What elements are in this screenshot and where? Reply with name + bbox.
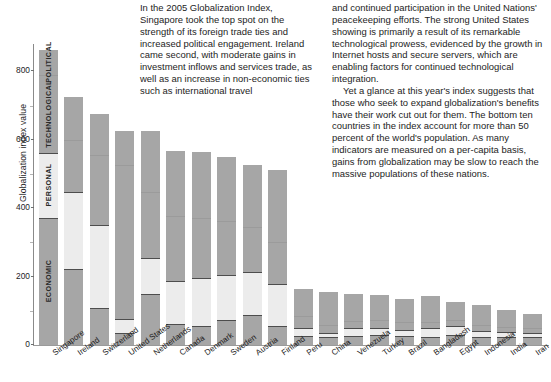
bar-segment-personal bbox=[64, 192, 83, 269]
y-axis-title: Globalization index value bbox=[18, 68, 28, 238]
bar-segment-political bbox=[217, 157, 236, 220]
bar-segment-personal bbox=[192, 278, 211, 326]
y-tick-minor-100 bbox=[30, 311, 33, 312]
bar-austria[interactable] bbox=[243, 165, 262, 345]
legend-label-technological: TECHNOLOGICAL bbox=[45, 80, 53, 148]
bar-segment-personal bbox=[421, 328, 440, 338]
y-tick-800: 800 bbox=[3, 65, 30, 75]
bar-segment-political bbox=[294, 289, 313, 316]
bar-segment-technological bbox=[141, 192, 160, 258]
bar-canada[interactable] bbox=[166, 151, 185, 345]
bar-segment-personal bbox=[294, 328, 313, 337]
bar-segment-personal bbox=[166, 281, 185, 324]
legend-label-political: POLITICAL bbox=[45, 42, 53, 84]
bar-segment-political bbox=[523, 314, 542, 328]
article-left-paragraph: In the 2005 Globalization Index, Singapo… bbox=[140, 2, 318, 97]
bar-sweden[interactable] bbox=[217, 157, 236, 345]
bar-segment-technological bbox=[243, 227, 262, 272]
bar-segment-political bbox=[141, 131, 160, 192]
y-tick-400: 400 bbox=[3, 202, 30, 212]
bar-segment-political bbox=[395, 299, 414, 322]
y-tick-200: 200 bbox=[3, 271, 30, 281]
bar-iran[interactable] bbox=[523, 314, 542, 345]
bar-segment-technological bbox=[395, 322, 414, 330]
bar-segment-political bbox=[370, 295, 389, 320]
bar-segment-technological bbox=[319, 325, 338, 333]
bar-segment-political bbox=[319, 292, 338, 324]
legend-label-personal: PERSONAL bbox=[45, 164, 53, 207]
bar-segment-technological bbox=[294, 316, 313, 328]
bar-segment-political bbox=[268, 170, 287, 242]
bar-segment-technological bbox=[166, 216, 185, 280]
article-column-left: In the 2005 Globalization Index, Singapo… bbox=[140, 2, 318, 97]
bar-ireland[interactable] bbox=[64, 97, 83, 345]
y-axis-line bbox=[33, 44, 34, 345]
bar-segment-technological bbox=[344, 321, 363, 329]
bar-segment-political bbox=[243, 165, 262, 227]
bar-netherlands[interactable] bbox=[141, 131, 160, 345]
article-right-paragraph: and continued participation in the Unite… bbox=[332, 2, 546, 85]
y-tick-600: 600 bbox=[3, 134, 30, 144]
bar-segment-technological bbox=[217, 221, 236, 276]
y-tick-0: 0 bbox=[3, 339, 30, 349]
bar-denmark[interactable] bbox=[192, 152, 211, 345]
bar-segment-political bbox=[166, 151, 185, 216]
bar-segment-political bbox=[446, 302, 465, 320]
bar-segment-technological bbox=[192, 218, 211, 278]
y-tick-minor-500 bbox=[30, 174, 33, 175]
bar-segment-personal bbox=[90, 225, 109, 308]
bar-united-states[interactable] bbox=[115, 131, 134, 345]
bar-segment-political bbox=[64, 97, 83, 140]
article-column-right: and continued participation in the Unite… bbox=[332, 2, 546, 180]
bar-switzerland[interactable] bbox=[90, 114, 109, 345]
bar-segment-political bbox=[344, 294, 363, 320]
bar-segment-personal bbox=[243, 272, 262, 315]
bar-segment-political bbox=[497, 310, 516, 327]
bar-segment-personal bbox=[395, 330, 414, 337]
bar-segment-political bbox=[472, 305, 491, 324]
bar-segment-personal bbox=[141, 258, 160, 294]
bar-segment-political bbox=[90, 114, 109, 155]
bar-segment-personal bbox=[344, 328, 363, 336]
bar-segment-technological bbox=[115, 165, 134, 319]
bar-segment-personal bbox=[217, 275, 236, 320]
bar-segment-technological bbox=[64, 140, 83, 191]
article-right-paragraph: Yet a glance at this year's index sugges… bbox=[332, 85, 546, 180]
bar-china[interactable] bbox=[319, 292, 338, 345]
legend-label-economic: ECONOMIC bbox=[45, 260, 53, 303]
bar-finland[interactable] bbox=[268, 170, 287, 345]
bar-segment-technological bbox=[90, 155, 109, 225]
bar-segment-political bbox=[421, 296, 440, 322]
bar-segment-political bbox=[115, 131, 134, 165]
y-tick-minor-300 bbox=[30, 242, 33, 243]
bar-segment-personal bbox=[268, 284, 287, 325]
bar-segment-political bbox=[192, 152, 211, 219]
y-tick-minor-700 bbox=[30, 106, 33, 107]
bar-segment-technological bbox=[268, 242, 287, 285]
